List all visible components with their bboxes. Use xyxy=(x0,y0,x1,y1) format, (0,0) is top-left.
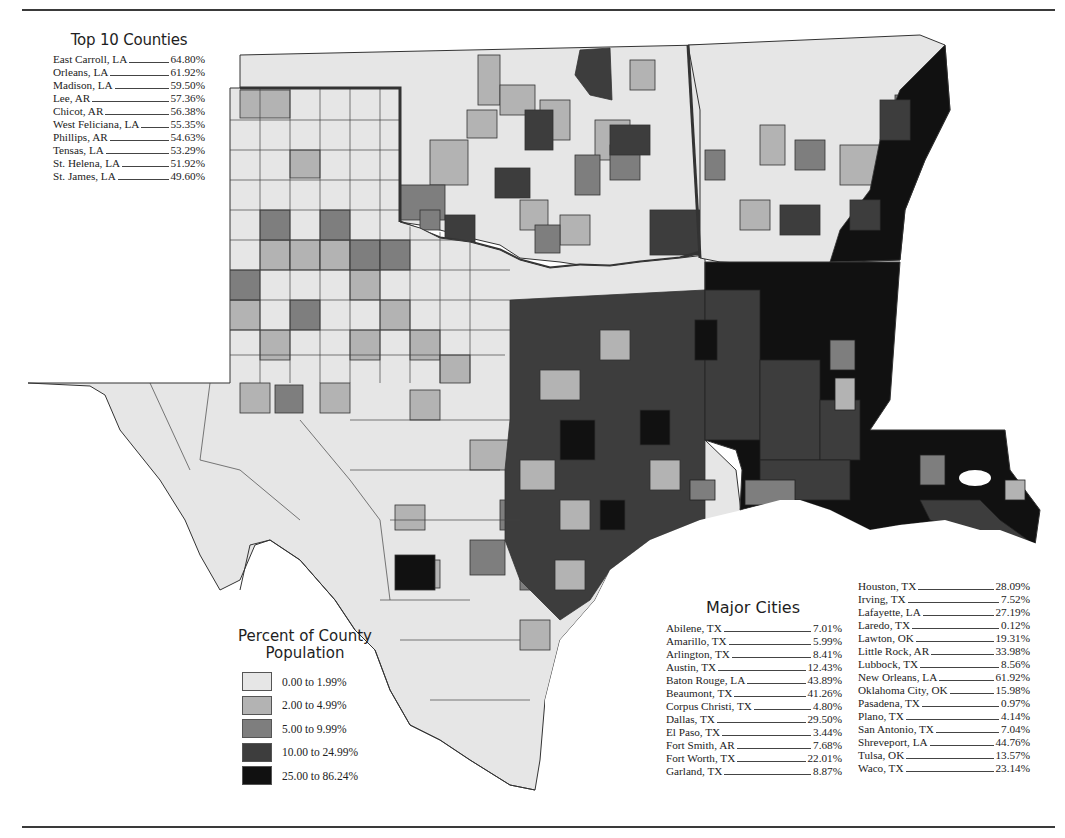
top-counties-panel: Top 10 Counties East Carroll, LA64.80% O… xyxy=(53,31,205,183)
list-item: Phillips, AR54.63% xyxy=(53,131,205,144)
list-item: East Carroll, LA64.80% xyxy=(53,53,205,66)
list-item: Corpus Christi, TX4.80% xyxy=(666,700,842,713)
list-item: St. Helena, LA51.92% xyxy=(53,157,205,170)
list-item: Arlington, TX8.41% xyxy=(666,648,842,661)
list-item: Tensas, LA53.29% xyxy=(53,144,205,157)
list-item: Lawton, OK19.31% xyxy=(858,632,1030,645)
louisiana xyxy=(690,262,1040,545)
list-item: Laredo, TX0.12% xyxy=(858,619,1030,632)
legend-item: 5.00 to 9.99% xyxy=(242,717,380,741)
list-item: Dallas, TX29.50% xyxy=(666,713,842,726)
list-item: Fort Smith, AR7.68% xyxy=(666,739,842,752)
list-item: Oklahoma City, OK15.98% xyxy=(858,684,1030,697)
list-item: Amarillo, TX5.99% xyxy=(666,635,842,648)
list-item: San Antonio, TX7.04% xyxy=(858,723,1030,736)
list-item: Lafayette, LA27.19% xyxy=(858,606,1030,619)
legend-title: Percent of County Population xyxy=(230,628,380,662)
list-item: Tulsa, OK13.57% xyxy=(858,749,1030,762)
list-item: Irving, TX7.52% xyxy=(858,593,1030,606)
top-counties-title: Top 10 Counties xyxy=(53,31,205,49)
list-item: Orleans, LA61.92% xyxy=(53,66,205,79)
list-item: Houston, TX28.09% xyxy=(858,580,1030,593)
list-item: Garland, TX8.87% xyxy=(666,765,842,778)
legend-item: 25.00 to 86.24% xyxy=(242,764,380,788)
list-item: Madison, LA59.50% xyxy=(53,79,205,92)
list-item: Baton Rouge, LA43.89% xyxy=(666,674,842,687)
list-item: Austin, TX12.43% xyxy=(666,661,842,674)
list-item: Plano, TX4.14% xyxy=(858,710,1030,723)
list-item: Fort Worth, TX22.01% xyxy=(666,752,842,765)
legend-swatch xyxy=(242,672,272,691)
list-item: Lubbock, TX8.56% xyxy=(858,658,1030,671)
list-item: Beaumont, TX41.26% xyxy=(666,687,842,700)
map-legend: Percent of County Population 0.00 to 1.9… xyxy=(230,628,380,788)
legend-item: 2.00 to 4.99% xyxy=(242,694,380,718)
legend-swatch xyxy=(242,719,272,738)
list-item: Lee, AR57.36% xyxy=(53,92,205,105)
major-cities-title: Major Cities xyxy=(706,598,800,617)
list-item: Abilene, TX7.01% xyxy=(666,622,842,635)
list-item: New Orleans, LA61.92% xyxy=(858,671,1030,684)
list-item: St. James, LA49.60% xyxy=(53,170,205,183)
major-cities-column-2: Houston, TX28.09% Irving, TX7.52% Lafaye… xyxy=(858,580,1030,775)
list-item: Chicot, AR56.38% xyxy=(53,105,205,118)
list-item: West Feliciana, LA55.35% xyxy=(53,118,205,131)
list-item: El Paso, TX3.44% xyxy=(666,726,842,739)
list-item: Waco, TX23.14% xyxy=(858,762,1030,775)
major-cities-column-1: Abilene, TX7.01% Amarillo, TX5.99% Arlin… xyxy=(666,622,842,778)
list-item: Little Rock, AR33.98% xyxy=(858,645,1030,658)
legend-swatch xyxy=(242,696,272,715)
arkansas xyxy=(688,35,950,265)
legend-swatch xyxy=(242,743,272,762)
legend-swatch xyxy=(242,766,272,785)
list-item: Pasadena, TX0.97% xyxy=(858,697,1030,710)
list-item: Shreveport, LA44.76% xyxy=(858,736,1030,749)
legend-item: 0.00 to 1.99% xyxy=(242,670,380,694)
legend-item: 10.00 to 24.99% xyxy=(242,741,380,765)
bottom-rule xyxy=(22,826,1055,828)
